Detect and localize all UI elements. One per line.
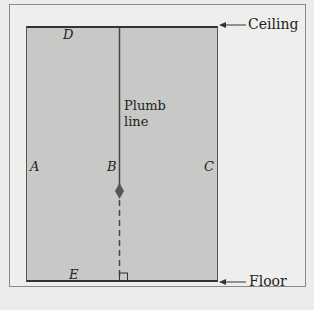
plumb-bob-icon bbox=[115, 183, 124, 199]
point-d-label: D bbox=[63, 28, 73, 41]
plumb-line-label-1: Plumb bbox=[124, 99, 166, 112]
ceiling-label: Ceiling bbox=[248, 17, 298, 31]
ceiling-arrow-icon bbox=[219, 22, 226, 28]
point-a-label: A bbox=[30, 160, 39, 173]
point-c-label: C bbox=[204, 160, 214, 173]
plumb-line-label-2: line bbox=[124, 115, 148, 128]
floor-label: Floor bbox=[249, 274, 287, 288]
diagram-lines bbox=[0, 0, 314, 310]
floor-arrow-icon bbox=[219, 279, 226, 285]
right-angle-icon bbox=[120, 273, 128, 281]
point-e-label: E bbox=[69, 268, 79, 281]
point-b-label: B bbox=[107, 160, 117, 173]
